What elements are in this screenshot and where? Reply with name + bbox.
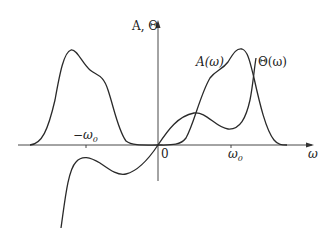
curve-phase-label: Θ(ω) (258, 55, 287, 69)
x-axis-label: ω (308, 147, 318, 161)
tick-pos-omega0-label: ω0 (228, 147, 243, 163)
origin-label: 0 (161, 147, 169, 161)
y-axis-label: A, Θ (131, 19, 158, 33)
curve-amplitude (30, 49, 287, 145)
curve-phase (61, 58, 256, 228)
curve-amplitude-label: A(ω) (195, 55, 224, 69)
spectrum-diagram: A, Θ ω 0 −ω0 ω0 A(ω) Θ(ω) (0, 0, 331, 242)
tick-neg-omega0-label: −ω0 (73, 128, 98, 144)
